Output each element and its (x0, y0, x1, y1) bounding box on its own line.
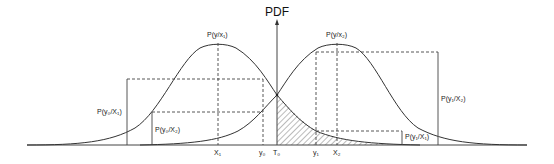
label-p-y1-x1: P(y₁/X₁) (405, 133, 429, 140)
curve-x2 (140, 44, 527, 145)
peak-label-x1: P(y/x₁) (207, 31, 228, 38)
tick-x1: X₁ (214, 149, 221, 156)
tick-x2: X₂ (333, 149, 340, 156)
peak-label-x2: P(y/x₂) (326, 31, 347, 38)
tick-y1: y₁ (313, 149, 319, 156)
pdf-axis-arrow-icon (275, 19, 279, 25)
label-p-y0-x1: P(y₀/X₁) (97, 108, 122, 115)
pdf-axis-label: PDF (265, 6, 289, 18)
tick-y0: y₀ (259, 149, 265, 156)
curve-x1 (27, 44, 420, 145)
pdf-diagram (0, 0, 554, 164)
intersection-point (276, 94, 279, 97)
tick-t0: T₀ (273, 149, 280, 156)
label-p-y1-x2: P(y₁/X₂) (441, 95, 466, 102)
label-p-y0-x2: P(y₀/X₂) (155, 126, 180, 133)
